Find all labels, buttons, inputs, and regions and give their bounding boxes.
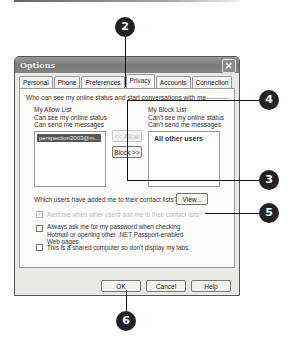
callout-4-3-line-v [127,100,128,180]
ok-button[interactable]: OK [101,280,141,292]
allow-list-item[interactable]: perspection2003@m... [37,134,101,142]
cancel-button[interactable]: Cancel [146,280,186,292]
allow-list-title: My Allow List [34,106,72,114]
tab-connection[interactable]: Connection [192,76,233,88]
callout-3: 3 [259,170,279,190]
callout-5: 5 [259,203,279,223]
callout-6: 6 [116,311,136,331]
callout-2: 2 [115,17,135,37]
callout-5-line [205,213,262,214]
tab-strip: Personal Phone Preferences Privacy Accou… [19,76,233,88]
close-icon[interactable]: ✕ [222,59,236,73]
block-listbox[interactable]: All other users [148,131,220,187]
view-button[interactable]: View... [176,193,208,205]
title-bar[interactable]: Options ✕ [15,57,239,73]
callout-2-line [125,35,126,87]
block-list-item[interactable]: All other users [154,135,203,143]
allow-list-desc2: Can send me messages [34,121,104,129]
block-list-desc2: Can't send me messages [148,121,221,129]
shared-checkbox-label: This is a shared computer so don't displ… [47,244,190,252]
block-list-title: My Block List [148,106,186,114]
tab-accounts[interactable]: Accounts [156,76,191,88]
help-button[interactable]: Help [191,280,231,292]
alert-checkbox-label: Alert me when other users add me to thei… [47,211,199,219]
tab-personal[interactable]: Personal [19,76,53,88]
tab-privacy[interactable]: Privacy [126,74,155,88]
callout-4-line-h [127,100,262,101]
contact-question: Which users have added me to their conta… [34,196,177,204]
top-rule [14,0,240,2]
tab-phone[interactable]: Phone [54,76,81,88]
password-checkbox[interactable] [36,225,43,232]
password-checkbox-label: Always ask me for my password when check… [47,223,197,246]
group-divider [197,98,229,99]
dialog-title: Options [20,60,55,70]
allow-listbox[interactable]: perspection2003@m... [34,131,106,187]
alert-checkbox[interactable]: ✓ [36,211,43,218]
shared-checkbox[interactable] [36,244,43,251]
tab-preferences[interactable]: Preferences [81,76,124,88]
callout-4: 4 [259,90,279,110]
callout-3-line-h [127,180,262,181]
